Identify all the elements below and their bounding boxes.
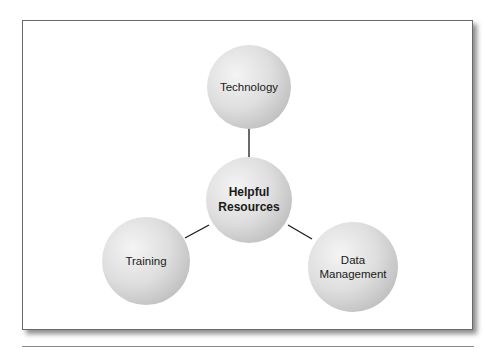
training-label-text: Training xyxy=(125,254,166,268)
diagram-canvas xyxy=(0,0,495,354)
data-management-label: Data Management xyxy=(308,252,398,282)
center-label-line2: Resources xyxy=(218,200,279,215)
data-management-label-line2: Management xyxy=(319,267,386,281)
data-management-label-line1: Data xyxy=(341,253,365,267)
helpful-resources-label: Helpful Resources xyxy=(206,184,292,216)
technology-label: Technology xyxy=(207,80,291,94)
training-label: Training xyxy=(104,254,188,268)
bottom-rule xyxy=(22,346,474,347)
technology-label-text: Technology xyxy=(220,80,278,94)
connector-data-management xyxy=(288,225,312,239)
center-label-line1: Helpful xyxy=(229,185,270,200)
connector-training xyxy=(185,225,209,238)
